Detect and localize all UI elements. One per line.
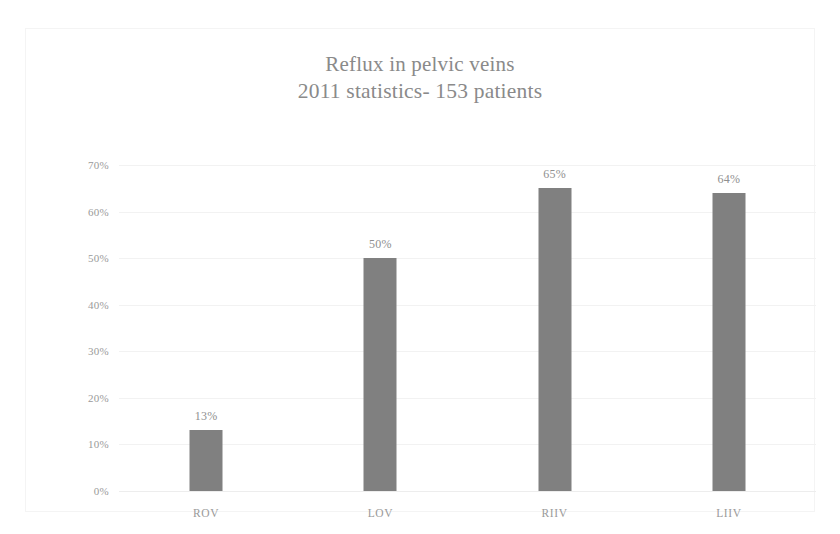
bar-value-label-riiv: 65% xyxy=(543,167,566,182)
bar-liiv[interactable] xyxy=(712,193,745,491)
x-axis-category-label-rov: ROV xyxy=(193,507,219,519)
chart-title: Reflux in pelvic veins 2011 statistics- … xyxy=(26,51,814,105)
bar-rov[interactable] xyxy=(190,430,223,491)
y-axis-tick-label: 30% xyxy=(88,345,109,357)
chart-title-line-2: 2011 statistics- 153 patients xyxy=(26,78,814,106)
bar-riiv[interactable] xyxy=(538,188,571,491)
bar-lov[interactable] xyxy=(364,258,397,491)
x-axis-category-label-lov: LOV xyxy=(368,507,393,519)
y-axis-tick-label: 0% xyxy=(94,485,109,497)
bar-group-liiv: 64%LIIV xyxy=(642,165,816,491)
bar-value-label-lov: 50% xyxy=(369,237,392,252)
bar-value-label-liiv: 64% xyxy=(717,172,740,187)
plot-area: 0%10%20%30%40%50%60%70% 13%ROV50%LOV65%R… xyxy=(119,165,816,491)
gridline-0pct xyxy=(119,491,816,492)
chart-title-line-1: Reflux in pelvic veins xyxy=(26,51,814,78)
y-axis-tick-label: 50% xyxy=(88,252,109,264)
bar-group-rov: 13%ROV xyxy=(119,165,293,491)
y-axis-tick-label: 70% xyxy=(88,159,109,171)
bar-group-lov: 50%LOV xyxy=(293,165,467,491)
y-axis-tick-label: 10% xyxy=(88,438,109,450)
x-axis-category-label-liiv: LIIV xyxy=(716,507,741,519)
chart-frame: Reflux in pelvic veins 2011 statistics- … xyxy=(25,28,815,512)
bar-value-label-rov: 13% xyxy=(195,409,218,424)
y-axis-tick-label: 60% xyxy=(88,206,109,218)
y-axis-tick-label: 20% xyxy=(88,392,109,404)
bar-group-riiv: 65%RIIV xyxy=(468,165,642,491)
y-axis-tick-label: 40% xyxy=(88,299,109,311)
x-axis-category-label-riiv: RIIV xyxy=(542,507,568,519)
